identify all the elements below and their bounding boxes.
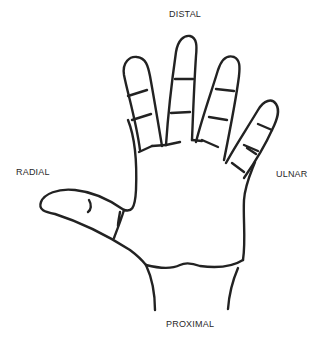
forearm-radial-edge: [146, 265, 155, 310]
thumb-web-fold: [114, 210, 124, 238]
wrist-crease: [146, 260, 243, 268]
little-finger-base-crease: [232, 163, 244, 172]
label-proximal: PROXIMAL: [166, 319, 214, 329]
thumb-outline: [40, 190, 146, 265]
index-finger-crease-distal: [128, 90, 147, 96]
palm-radial-edge: [124, 120, 136, 211]
index-finger-outline: [124, 57, 162, 150]
middle-finger-crease-middle: [171, 112, 190, 113]
label-radial: RADIAL: [16, 167, 50, 177]
middle-finger-base-crease: [166, 142, 180, 145]
label-ulnar: ULNAR: [276, 169, 308, 179]
forearm-ulnar-edge: [228, 268, 238, 309]
little-finger-crease-distal: [258, 124, 272, 130]
ring-finger-crease-middle: [209, 117, 227, 120]
middle-finger-outline: [166, 36, 196, 145]
thumb-crease: [88, 200, 91, 212]
ring-finger-outline: [196, 56, 239, 160]
ring-finger-crease-distal: [216, 89, 234, 91]
web-crease-index-middle: [152, 145, 166, 146]
label-distal: DISTAL: [169, 9, 201, 19]
web-crease-middle-ring: [192, 140, 202, 141]
ring-finger-base-crease: [202, 140, 218, 147]
